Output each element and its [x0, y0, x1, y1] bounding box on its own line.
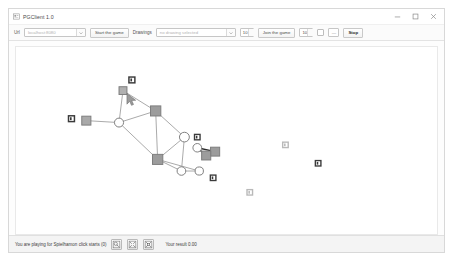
graph-node-circle[interactable]	[177, 167, 186, 176]
player-count-stepper[interactable]: 10	[299, 28, 313, 37]
player-marker-icon[interactable]	[68, 115, 75, 122]
stepper-arrows-icon[interactable]	[307, 29, 313, 36]
start-game-label: Start the game	[95, 30, 124, 35]
graph-node-square[interactable]	[119, 87, 127, 95]
drawing-select-combo[interactable]: no drawing selected	[156, 28, 236, 37]
drawing-count-value[interactable]: 10	[241, 30, 248, 35]
player-marker-icon[interactable]	[210, 174, 217, 181]
start-game-button[interactable]: Start the game	[90, 28, 129, 38]
graph-canvas[interactable]	[15, 46, 438, 235]
status-bar: You are playing for Spielhamon click sta…	[9, 235, 444, 252]
graph-node-square[interactable]	[153, 154, 163, 164]
drawings-label: Drawings	[133, 30, 152, 35]
url-label: Url	[14, 30, 20, 35]
graph-node-circle[interactable]	[114, 118, 123, 127]
player-marker-icon[interactable]	[315, 160, 322, 167]
graph-node-circle[interactable]	[193, 144, 202, 153]
player-marker-icon[interactable]	[246, 189, 253, 196]
graph-node-square[interactable]	[202, 151, 211, 160]
toolbar-checkbox[interactable]	[317, 29, 324, 36]
server-url-input[interactable]: localhost:8080	[25, 30, 76, 35]
graph-node-circle[interactable]	[179, 132, 189, 142]
graph-node-square[interactable]	[151, 106, 161, 116]
marker-glyph	[317, 162, 319, 165]
marker-glyph	[130, 78, 132, 81]
maximize-icon[interactable]	[411, 12, 420, 21]
zoom-in-button[interactable]	[143, 239, 154, 250]
graph-edges	[86, 91, 215, 171]
drawing-count-stepper[interactable]: 10	[240, 28, 254, 37]
graph-edge[interactable]	[156, 111, 158, 159]
marker-glyph	[284, 144, 286, 147]
marker-glyph	[70, 117, 72, 120]
application-window: PGClient 1.0 Url localh	[8, 8, 445, 253]
graph-markers	[68, 76, 322, 195]
status-message: You are playing for Spielhamon click sta…	[15, 242, 106, 247]
close-icon[interactable]	[429, 12, 438, 21]
graph-node-square[interactable]	[82, 116, 91, 125]
player-count-value[interactable]: 10	[300, 30, 307, 35]
canvas-container	[9, 41, 444, 235]
window-title: PGClient 1.0	[23, 14, 54, 20]
graph-node-circle[interactable]	[195, 167, 203, 175]
graph-drawing[interactable]	[16, 47, 437, 234]
stop-label: Stop	[348, 30, 358, 35]
stop-button[interactable]: Stop	[343, 28, 363, 38]
stepper-arrows-icon[interactable]	[248, 29, 254, 36]
toolbar-dash-field[interactable]: —	[328, 28, 339, 37]
chevron-down-icon[interactable]	[76, 29, 85, 36]
window-controls	[393, 9, 442, 24]
zoom-fit-button[interactable]	[111, 239, 122, 250]
join-game-label: Join the game	[263, 30, 291, 35]
graph-node-square[interactable]	[211, 147, 220, 156]
marker-glyph	[196, 136, 198, 139]
zoom-out-button[interactable]	[127, 239, 138, 250]
minimize-icon[interactable]	[393, 12, 402, 21]
marker-glyph	[212, 176, 214, 179]
result-label: Your result 0.00	[165, 242, 196, 247]
app-icon	[13, 13, 20, 20]
drawing-select-value[interactable]: no drawing selected	[157, 30, 226, 35]
player-marker-icon[interactable]	[128, 76, 135, 83]
toolbar-dash-label: —	[332, 30, 336, 35]
toolbar: Url localhost:8080 Start the game Drawin…	[9, 25, 444, 41]
server-url-combo[interactable]: localhost:8080	[24, 28, 86, 37]
marker-glyph	[248, 191, 250, 194]
graph-nodes	[82, 87, 220, 176]
player-marker-icon[interactable]	[282, 141, 289, 148]
chevron-down-icon[interactable]	[226, 29, 235, 36]
title-bar[interactable]: PGClient 1.0	[9, 9, 444, 25]
graph-edge[interactable]	[119, 123, 158, 160]
join-game-button[interactable]: Join the game	[258, 28, 296, 38]
player-marker-icon[interactable]	[194, 134, 201, 141]
